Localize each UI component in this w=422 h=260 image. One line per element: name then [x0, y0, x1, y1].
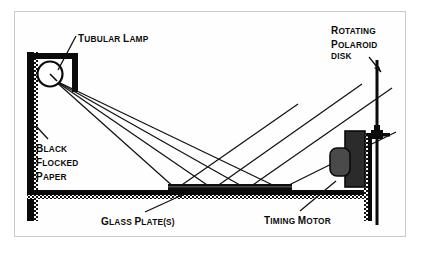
label-glass-plates: GLASS PLATE(S) [101, 214, 175, 228]
label-motor-rest1: IMING [270, 216, 295, 226]
label-glass-rest1: LASS [109, 217, 132, 227]
label-polaroid-line1-rest: OTATING [338, 26, 376, 36]
label-polaroid-line2: POLAROID [331, 37, 378, 51]
glass-plate-stack [168, 184, 292, 190]
label-flocked-line2-rest: LOCKED [42, 158, 78, 168]
label-glass-cap1: G [101, 216, 109, 227]
label-tubular-lamp-rest1: UBULAR [84, 34, 120, 44]
label-flocked-line2: FLOCKED [36, 155, 79, 169]
label-motor-rest2: OTOR [306, 216, 331, 226]
label-tubular-lamp: TUBULAR LAMP [78, 33, 148, 45]
label-polaroid-line2-rest: OLAROID [338, 40, 378, 50]
timing-motor [330, 131, 365, 187]
label-polaroid-line2-cap: P [331, 39, 338, 50]
label-polaroid-line1: ROTATING [331, 23, 378, 37]
label-black-flocked-paper: BLACK FLOCKED PAPER [36, 141, 79, 183]
label-flocked-line1: BLACK [36, 141, 79, 155]
label-flocked-line3-rest: APER [43, 172, 67, 182]
diagram-page: TUBULAR LAMP ROTATING POLAROID DISK BLAC… [0, 0, 422, 260]
label-rotating-polaroid-disk: ROTATING POLAROID DISK [331, 23, 378, 62]
light-rays-incident [54, 80, 281, 189]
label-flocked-line3: PAPER [36, 169, 79, 183]
tubular-lamp [38, 62, 63, 87]
label-glass-rest2: LATE(S) [141, 217, 175, 227]
label-polaroid-line3: DISK [331, 51, 378, 62]
label-flocked-line3-cap: P [36, 171, 43, 182]
label-tubular-lamp-rest2: AMP [129, 34, 148, 44]
label-timing-motor: TIMING MOTOR [264, 213, 331, 227]
label-flocked-line1-rest: LACK [43, 144, 67, 154]
